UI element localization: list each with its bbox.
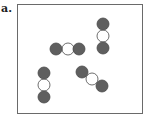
molecules-diagram (0, 0, 146, 117)
molecule-vertical-top-right (97, 18, 109, 54)
light-atom-icon (86, 73, 98, 85)
dark-atom-icon (76, 66, 88, 78)
light-atom-icon (38, 79, 50, 91)
dark-atom-icon (50, 43, 62, 55)
dark-atom-icon (38, 67, 50, 79)
molecule-vertical-bottom-left (38, 67, 50, 103)
dark-atom-icon (38, 91, 50, 103)
dark-atom-icon (97, 18, 109, 30)
molecule-horizontal (50, 43, 85, 55)
light-atom-icon (97, 30, 109, 42)
dark-atom-icon (97, 42, 109, 54)
light-atom-icon (62, 43, 74, 55)
dark-atom-icon (96, 80, 108, 92)
molecule-diagonal (76, 66, 108, 92)
dark-atom-icon (73, 43, 85, 55)
